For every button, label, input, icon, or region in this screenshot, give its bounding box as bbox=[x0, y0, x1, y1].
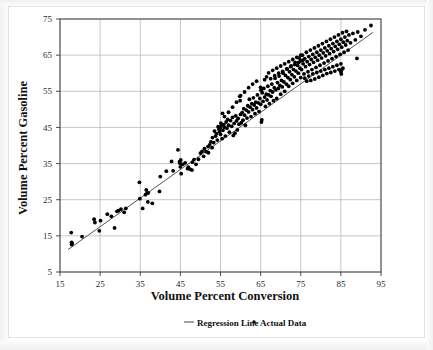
data-point bbox=[305, 79, 309, 83]
data-point bbox=[335, 63, 339, 67]
data-point bbox=[215, 132, 219, 136]
data-point bbox=[109, 214, 113, 218]
data-point bbox=[333, 35, 337, 39]
data-point bbox=[343, 35, 347, 39]
data-point bbox=[190, 168, 194, 172]
scatter-plot: 152535455565758595 756555453525155 Volum… bbox=[0, 0, 433, 350]
data-point bbox=[320, 56, 324, 60]
data-point bbox=[328, 52, 332, 56]
data-point bbox=[227, 110, 231, 114]
data-point bbox=[321, 73, 325, 77]
data-point bbox=[349, 41, 353, 45]
data-point bbox=[331, 65, 335, 69]
data-point bbox=[219, 132, 223, 136]
data-point bbox=[326, 59, 330, 63]
data-point bbox=[280, 85, 284, 89]
data-point bbox=[347, 33, 351, 37]
data-point bbox=[243, 90, 247, 94]
data-point bbox=[255, 79, 259, 83]
data-point bbox=[124, 206, 128, 210]
data-point bbox=[271, 90, 275, 94]
data-point bbox=[291, 81, 295, 85]
data-point bbox=[243, 123, 247, 127]
data-point bbox=[295, 55, 299, 59]
x-tick-label: 65 bbox=[256, 279, 266, 289]
data-point bbox=[289, 65, 293, 69]
data-point bbox=[251, 108, 255, 112]
x-tick-label-group: 152535455565758595 bbox=[56, 279, 387, 289]
data-point bbox=[92, 217, 96, 221]
data-point bbox=[334, 55, 338, 59]
data-point bbox=[265, 98, 269, 102]
data-point bbox=[301, 58, 305, 62]
data-point bbox=[291, 58, 295, 62]
data-point bbox=[179, 172, 183, 176]
data-point bbox=[255, 106, 259, 110]
data-point bbox=[339, 72, 343, 76]
data-point bbox=[260, 91, 264, 95]
data-point bbox=[252, 96, 256, 100]
data-point bbox=[275, 66, 279, 70]
data-point bbox=[304, 50, 308, 54]
data-point bbox=[247, 97, 251, 101]
data-point bbox=[271, 68, 275, 72]
data-point bbox=[306, 70, 310, 74]
data-point bbox=[251, 82, 255, 86]
x-tick-label: 35 bbox=[136, 279, 146, 289]
data-point bbox=[281, 70, 285, 74]
data-point bbox=[146, 200, 150, 204]
data-point bbox=[337, 68, 341, 72]
data-point bbox=[308, 48, 312, 52]
data-point bbox=[333, 69, 337, 73]
data-point bbox=[158, 175, 162, 179]
data-point bbox=[363, 28, 367, 32]
data-point bbox=[183, 161, 187, 165]
x-axis-ticks bbox=[60, 272, 381, 276]
data-point bbox=[262, 86, 266, 90]
data-point bbox=[302, 72, 306, 76]
data-point bbox=[269, 94, 273, 98]
data-point bbox=[325, 72, 329, 76]
data-point bbox=[221, 111, 225, 115]
data-point bbox=[176, 148, 180, 152]
data-point bbox=[316, 58, 320, 62]
data-point bbox=[258, 97, 262, 101]
data-point bbox=[355, 57, 359, 61]
data-point bbox=[266, 84, 270, 88]
data-point bbox=[171, 169, 175, 173]
y-tick-label: 75 bbox=[43, 14, 53, 24]
data-point bbox=[323, 46, 327, 50]
data-point bbox=[93, 221, 97, 225]
data-point bbox=[285, 67, 289, 71]
data-point bbox=[315, 71, 319, 75]
data-point bbox=[300, 68, 304, 72]
data-point bbox=[138, 197, 142, 201]
data-point bbox=[227, 130, 231, 134]
data-point bbox=[351, 32, 355, 36]
data-point bbox=[197, 157, 201, 161]
data-point bbox=[318, 63, 322, 67]
data-point bbox=[283, 89, 287, 93]
data-point bbox=[308, 63, 312, 67]
data-point bbox=[341, 31, 345, 35]
data-point bbox=[327, 66, 331, 70]
y-tick-label: 15 bbox=[43, 231, 53, 241]
data-point bbox=[279, 92, 283, 96]
chart-figure: 152535455565758595 756555453525155 Volum… bbox=[0, 0, 433, 350]
data-point bbox=[69, 231, 73, 235]
data-point bbox=[356, 30, 360, 34]
x-tick-label: 25 bbox=[96, 279, 106, 289]
data-point bbox=[324, 54, 328, 58]
x-tick-label: 95 bbox=[377, 279, 387, 289]
data-point bbox=[261, 100, 265, 104]
data-point bbox=[279, 64, 283, 68]
data-point bbox=[321, 42, 325, 46]
data-point bbox=[257, 110, 261, 114]
data-point bbox=[239, 94, 243, 98]
data-point bbox=[345, 39, 349, 43]
data-point bbox=[170, 160, 174, 164]
data-point bbox=[233, 131, 237, 135]
data-point bbox=[277, 71, 281, 75]
y-tick-label: 45 bbox=[43, 123, 53, 133]
legend-dot-marker bbox=[252, 320, 255, 323]
